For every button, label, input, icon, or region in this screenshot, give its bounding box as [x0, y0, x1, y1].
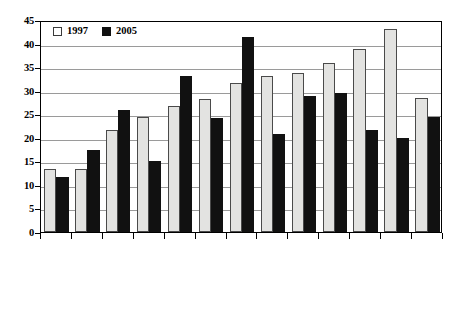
bar: [56, 177, 68, 232]
bar: [304, 96, 316, 232]
bar: [353, 49, 365, 232]
bar: [137, 117, 149, 232]
bar: [87, 150, 99, 232]
legend-label: 2005: [116, 26, 137, 37]
light-square-swatch: [53, 27, 62, 36]
y-axis: 051015202530354045: [0, 0, 40, 260]
plot-area: [40, 21, 442, 233]
y-axis-tick-label: 20: [24, 134, 34, 145]
bar: [397, 138, 409, 232]
y-axis-tick-label: 40: [24, 39, 34, 50]
legend-label: 1997: [67, 26, 88, 37]
bar-group: [227, 22, 258, 232]
bar: [366, 130, 378, 232]
bar-group: [196, 22, 227, 232]
bar: [211, 118, 223, 232]
bar: [384, 29, 396, 232]
y-axis-tick-label: 5: [29, 204, 34, 215]
y-axis-tick-label: 10: [24, 181, 34, 192]
bar: [149, 161, 161, 232]
bar: [323, 63, 335, 232]
bars-layer: [41, 22, 441, 232]
bar: [292, 73, 304, 232]
dark-square-swatch: [102, 27, 111, 36]
bar: [273, 134, 285, 232]
bar: [335, 93, 347, 232]
bar: [118, 110, 130, 232]
bar-group: [412, 22, 443, 232]
bar: [242, 37, 254, 233]
bar-group: [257, 22, 288, 232]
chart-legend: 19972005: [47, 22, 143, 40]
y-axis-tick-label: 0: [29, 228, 34, 239]
y-axis-tick-label: 45: [24, 16, 34, 27]
bar-chart: 051015202530354045 MYANMARCAMPODIAINDIAP…: [0, 0, 460, 315]
bar: [44, 169, 56, 232]
bar: [180, 76, 192, 232]
bar-group: [350, 22, 381, 232]
bar: [168, 106, 180, 232]
x-axis-labels: MYANMARCAMPODIAINDIAPHILIPPINESVIETNAMIN…: [0, 239, 460, 315]
bar: [75, 169, 87, 232]
bar-group: [103, 22, 134, 232]
legend-item: 1997: [53, 26, 88, 37]
bar: [230, 83, 242, 232]
legend-item: 2005: [102, 26, 137, 37]
bar-group: [381, 22, 412, 232]
bar-group: [165, 22, 196, 232]
bar-group: [288, 22, 319, 232]
y-axis-tick-label: 35: [24, 63, 34, 74]
bar: [415, 98, 427, 232]
bar: [261, 76, 273, 232]
bar: [199, 99, 211, 232]
bar-group: [319, 22, 350, 232]
bar-group: [72, 22, 103, 232]
bar: [106, 130, 118, 232]
bar-group: [41, 22, 72, 232]
y-axis-tick-label: 30: [24, 86, 34, 97]
y-axis-tick-label: 15: [24, 157, 34, 168]
bar: [428, 117, 440, 232]
bar-group: [134, 22, 165, 232]
y-axis-tick-label: 25: [24, 110, 34, 121]
